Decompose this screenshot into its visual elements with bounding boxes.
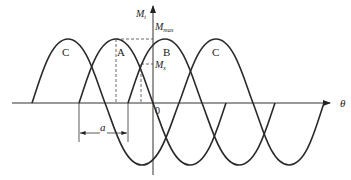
curve-c <box>32 39 324 165</box>
curve-c-right-label: C <box>212 46 219 58</box>
curve-c-label: C <box>62 46 69 58</box>
curve-a-label: A <box>117 46 125 58</box>
mx-label: Mx <box>154 59 166 71</box>
mmax-label: Mmax <box>154 21 174 33</box>
moment-diagram: Mt Mmax Mx θ 0 a C A B C <box>0 0 351 180</box>
y-axis-label: Mt <box>135 8 146 20</box>
theta-label: θ <box>340 97 346 109</box>
origin-label: 0 <box>155 105 160 116</box>
curve-b-label: B <box>163 46 170 58</box>
dimension-label: a <box>100 121 106 133</box>
